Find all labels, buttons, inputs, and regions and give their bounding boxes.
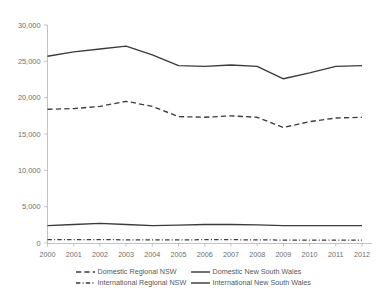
x-tick-label: 2005 (171, 250, 187, 259)
x-tick-label: 2004 (144, 250, 160, 259)
series-line-international-new-south-wales (48, 223, 363, 225)
x-tick-label: 2007 (223, 250, 239, 259)
legend-label: Domestic Regional NSW (98, 267, 177, 276)
x-tick-label: 2002 (92, 250, 108, 259)
y-tick-label: 5,000 (22, 202, 41, 211)
y-tick-label: 10,000 (18, 166, 41, 175)
legend-label: Domestic New South Wales (213, 267, 302, 276)
x-tick-label: 2001 (66, 250, 82, 259)
data-series-group (48, 46, 363, 240)
line-chart: 05,00010,00015,00020,00025,00030,000 200… (0, 0, 386, 297)
legend-label: International New South Wales (213, 278, 312, 287)
y-tick-labels: 05,00010,00015,00020,00025,00030,000 (18, 21, 41, 248)
y-tick-label: 25,000 (18, 57, 41, 66)
chart-legend: Domestic Regional NSWDomestic New South … (76, 267, 311, 287)
x-tick-label: 2009 (275, 250, 291, 259)
series-line-domestic-regional-nsw (48, 101, 363, 127)
x-tick-label: 2010 (302, 250, 318, 259)
chart-canvas: 05,00010,00015,00020,00025,00030,000 200… (0, 0, 386, 297)
y-tick-label: 30,000 (18, 21, 41, 30)
x-tick-label: 2000 (40, 250, 56, 259)
x-tick-label: 2008 (249, 250, 265, 259)
y-tick-marks (44, 25, 48, 243)
x-axis: 2000200120022003200420052006200720082009… (40, 243, 373, 259)
x-tick-label: 2011 (328, 250, 343, 259)
y-tick-label: 20,000 (18, 93, 41, 102)
y-axis: 05,00010,00015,00020,00025,00030,000 (18, 21, 48, 248)
y-tick-label: 0 (36, 239, 40, 248)
legend-label: International Regional NSW (98, 278, 187, 287)
x-tick-label: 2012 (354, 250, 370, 259)
series-line-international-regional-nsw (48, 240, 363, 241)
series-line-domestic-new-south-wales (48, 46, 363, 79)
x-tick-labels: 2000200120022003200420052006200720082009… (40, 250, 371, 259)
x-tick-label: 2006 (197, 250, 213, 259)
x-tick-label: 2003 (118, 250, 134, 259)
y-tick-label: 15,000 (18, 130, 41, 139)
